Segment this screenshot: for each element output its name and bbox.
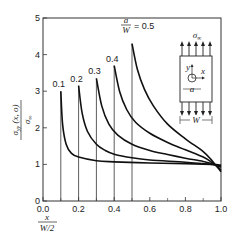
curve-labels: 0.10.20.30.4 (53, 54, 119, 90)
x-tick-label: 0.8 (179, 204, 192, 214)
svg-text:= 0.5: = 0.5 (134, 21, 154, 31)
curve-label: 0.4 (106, 54, 119, 64)
svg-text:x: x (44, 212, 49, 222)
load-arrows-bottom (180, 102, 212, 116)
curve-label: 0.3 (88, 66, 101, 76)
y-tick-label: 3 (35, 86, 40, 96)
svg-text:σ∞: σ∞ (22, 115, 33, 124)
x-tick-label: 1.0 (215, 204, 228, 214)
svg-text:W/2: W/2 (40, 223, 55, 233)
y-axis-ticks: 012345 (35, 13, 47, 206)
svg-text:y: y (185, 62, 190, 72)
svg-text:a: a (190, 84, 195, 94)
stress-concentration-chart: 012345 0.00.20.40.60.81.0 0.10.20.30.4 a… (0, 0, 234, 242)
x-tick-label: 0.6 (144, 204, 157, 214)
y-axis-label: σyy (x, o) σ∞ (10, 100, 33, 140)
svg-text:a: a (124, 15, 129, 25)
curve-label: 0.2 (70, 74, 83, 84)
load-arrows-top (180, 41, 212, 56)
svg-text:σ∞: σ∞ (193, 30, 202, 41)
x-axis-label: x W/2 (38, 212, 57, 233)
svg-text:σyy (x, o): σyy (x, o) (10, 104, 21, 135)
y-tick-label: 2 (35, 123, 40, 133)
curve-label: 0.1 (53, 79, 66, 89)
x-tick-label: 0.4 (108, 204, 121, 214)
svg-text:x: x (200, 66, 205, 76)
specimen-inset: σ∞ y x a W (180, 30, 212, 125)
svg-text:W: W (122, 25, 131, 35)
x-tick-label: 0.2 (72, 204, 85, 214)
y-tick-label: 4 (35, 50, 40, 60)
y-tick-label: 5 (35, 13, 40, 23)
y-tick-label: 1 (35, 159, 40, 169)
